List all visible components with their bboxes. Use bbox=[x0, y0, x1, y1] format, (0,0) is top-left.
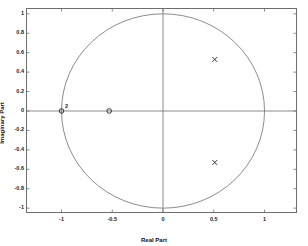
y-tick-label: 1 bbox=[12, 11, 24, 17]
y-tick-label: 0.8 bbox=[12, 31, 24, 37]
x-axis-title: Real Part bbox=[141, 237, 167, 243]
y-tick-label: 0 bbox=[12, 108, 24, 114]
axis-reference-lines bbox=[26, 8, 297, 213]
y-tick-label: 0.4 bbox=[12, 69, 24, 75]
plot-canvas bbox=[26, 8, 297, 213]
y-axis-title: Imaginary Part bbox=[0, 102, 5, 144]
y-tick-label: 0.2 bbox=[12, 89, 24, 95]
y-tick-label: -1 bbox=[12, 205, 24, 211]
y-tick-label: 0.6 bbox=[12, 50, 24, 56]
y-tick-label: -0.2 bbox=[12, 128, 24, 134]
pole-zero-figure: -1-0.500.51 10.80.60.40.20-0.2-0.4-0.6-0… bbox=[0, 0, 308, 246]
y-tick-label: -0.6 bbox=[12, 167, 24, 173]
x-tick-label: -1 bbox=[59, 217, 64, 223]
y-tick-label: -0.8 bbox=[12, 186, 24, 192]
y-tick-label: -0.4 bbox=[12, 147, 24, 153]
x-tick-label: 0 bbox=[161, 217, 164, 223]
x-tick-label: 0.5 bbox=[210, 217, 218, 223]
x-tick-label: -0.5 bbox=[108, 217, 117, 223]
tick-marks bbox=[26, 8, 297, 213]
multiplicity-label: 2 bbox=[65, 104, 68, 110]
x-tick-label: 1 bbox=[263, 217, 266, 223]
